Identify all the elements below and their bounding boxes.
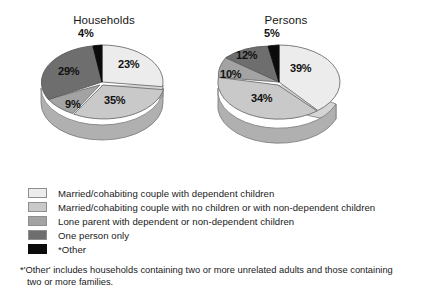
legend-item-label: Lone parent with dependent or non-depend… xyxy=(58,216,294,227)
persons-label-12: 12% xyxy=(236,49,257,61)
persons-label-10: 10% xyxy=(220,68,241,80)
households-label-29: 29% xyxy=(58,65,79,77)
households-label-23: 23% xyxy=(118,58,139,70)
persons-pie-graphic xyxy=(190,0,370,180)
footnote-line-2: two or more families. xyxy=(20,277,420,289)
legend-item-label: *Other xyxy=(58,244,86,255)
legend-item: *Other xyxy=(28,242,418,256)
households-label-4: 4% xyxy=(78,27,94,39)
footnote-line-1: *'Other' includes households containing … xyxy=(20,265,393,275)
persons-label-5: 5% xyxy=(264,27,280,39)
legend-item-label: One person only xyxy=(58,230,129,241)
households-pie-graphic xyxy=(12,0,192,180)
legend-swatch-icon xyxy=(28,202,47,212)
households-label-9: 9% xyxy=(65,98,81,110)
legend-swatch-icon xyxy=(28,230,47,240)
legend-item: Married/cohabiting couple with no childr… xyxy=(28,200,418,214)
persons-label-39: 39% xyxy=(290,62,311,74)
legend-item-label: Married/cohabiting couple with no childr… xyxy=(58,202,375,213)
legend-item: Married/cohabiting couple with dependent… xyxy=(28,186,418,200)
legend-swatch-icon xyxy=(28,188,47,198)
legend-swatch-icon xyxy=(28,216,47,226)
households-label-35: 35% xyxy=(104,94,125,106)
persons-label-34: 34% xyxy=(251,92,272,104)
pie-chart-households: Households xyxy=(12,0,192,180)
pie-charts-area: Households xyxy=(0,0,427,180)
legend-item: Lone parent with dependent or non-depend… xyxy=(28,214,418,228)
legend-item: One person only xyxy=(28,228,418,242)
legend-swatch-icon xyxy=(28,244,47,254)
pie-chart-persons: Persons 39% 34% 10% xyxy=(190,0,370,180)
chart-footnote: *'Other' includes households containing … xyxy=(20,265,420,288)
legend-item-label: Married/cohabiting couple with dependent… xyxy=(58,188,274,199)
chart-legend: Married/cohabiting couple with dependent… xyxy=(28,186,418,256)
